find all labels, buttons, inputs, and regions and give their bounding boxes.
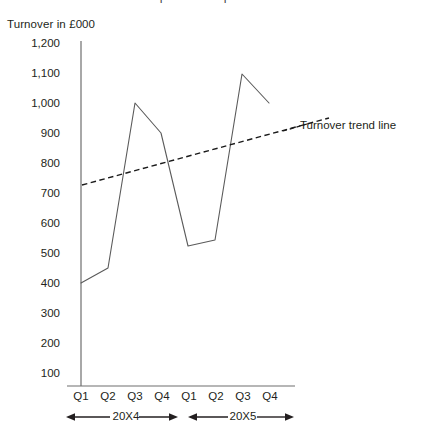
x-tick-20X5-q1: Q1 <box>174 391 204 403</box>
plot-area <box>0 0 433 442</box>
legend-trend-label: Turnover trend line <box>300 120 396 132</box>
sales-performance-chart: Graph of sales performance Turnover in £… <box>0 0 433 442</box>
x-tick-20X4-q1: Q1 <box>66 391 96 403</box>
x-tick-20X4-q3: Q3 <box>120 391 150 403</box>
period-label-20X5: 20X5 <box>229 411 257 423</box>
x-tick-20X5-q2: Q2 <box>201 391 231 403</box>
x-tick-20X5-q4: Q4 <box>255 391 285 403</box>
x-tick-20X4-q2: Q2 <box>93 391 123 403</box>
period-label-20X4: 20X4 <box>112 411 140 423</box>
turnover-data-line <box>81 74 269 283</box>
x-tick-20X5-q3: Q3 <box>228 391 258 403</box>
x-tick-20X4-q4: Q4 <box>147 391 177 403</box>
